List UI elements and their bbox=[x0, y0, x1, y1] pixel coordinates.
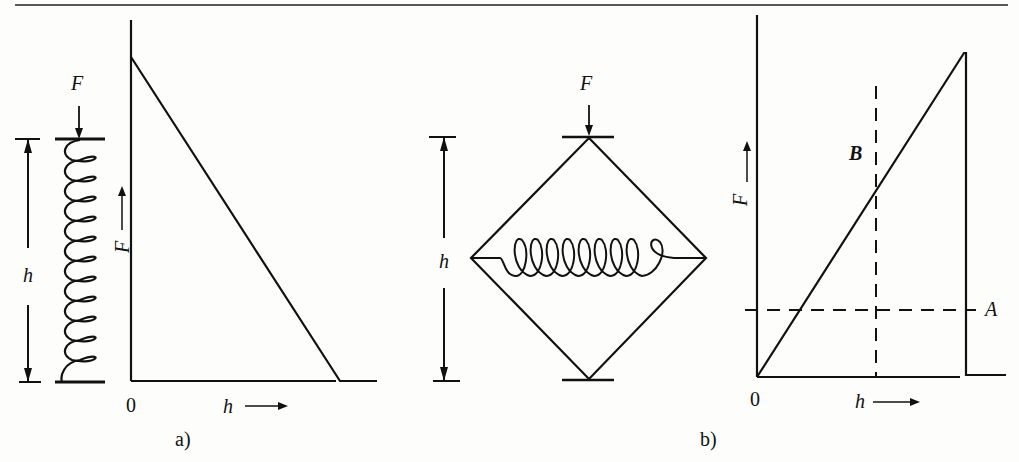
y-axis-label-b: F bbox=[729, 193, 751, 207]
line-a-label: A bbox=[983, 298, 998, 320]
force-arrow-icon bbox=[585, 125, 593, 136]
force-label-b: F bbox=[579, 72, 593, 94]
coil-spring-vertical bbox=[62, 140, 96, 382]
caption-a: a) bbox=[175, 428, 191, 451]
height-label-a: h bbox=[23, 264, 33, 286]
coil-spring-horizontal bbox=[471, 239, 706, 276]
caption-b: b) bbox=[700, 428, 717, 451]
arrow-right-icon bbox=[910, 398, 920, 406]
arrowhead-up-icon bbox=[24, 139, 32, 153]
arrow-right-icon bbox=[278, 402, 288, 410]
arrowhead-down-icon bbox=[440, 367, 448, 381]
x-axis-label-a: h bbox=[223, 395, 233, 417]
line-b-label: B bbox=[848, 142, 862, 164]
origin-label-b: 0 bbox=[750, 388, 760, 410]
force-label-a: F bbox=[70, 72, 84, 94]
arrowhead-down-icon bbox=[24, 368, 32, 382]
arrowhead-up-icon bbox=[440, 137, 448, 151]
height-dimension-a bbox=[15, 139, 41, 382]
panel-a: h F 0 h F a) bbox=[15, 20, 377, 451]
force-curve-b bbox=[757, 53, 1006, 377]
graph-b: A B 0 h F b) bbox=[700, 15, 1006, 451]
force-curve-a bbox=[131, 57, 377, 381]
figure-canvas: h F 0 h F a) bbox=[0, 0, 1019, 462]
panel-b-mechanism: h F bbox=[429, 72, 706, 381]
y-axis-label-a: F bbox=[111, 240, 133, 254]
graph-a bbox=[131, 20, 377, 381]
arrow-up-icon bbox=[118, 186, 126, 196]
origin-label-a: 0 bbox=[126, 394, 136, 416]
force-arrow-icon bbox=[75, 128, 83, 139]
height-label-b: h bbox=[439, 250, 449, 272]
x-axis-label-b: h bbox=[855, 390, 865, 412]
arrow-up-icon bbox=[743, 141, 751, 151]
